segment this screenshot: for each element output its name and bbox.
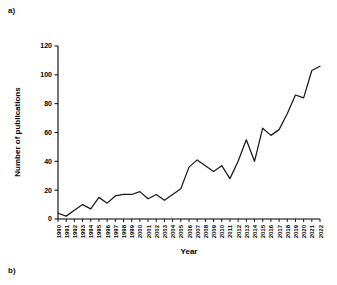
x-axis-tick-label: 2002	[154, 224, 160, 238]
x-axis-tick-label: 1994	[88, 224, 94, 238]
y-axis-tick-labels: 020406080100120	[40, 42, 52, 222]
x-axis-tick-label: 2006	[187, 224, 193, 238]
x-axis-tick-label: 1990	[56, 224, 62, 238]
x-axis-tick-label: 2015	[260, 224, 266, 238]
y-axis-tick-label: 20	[44, 187, 52, 194]
y-axis-tick-label: 0	[48, 215, 52, 222]
panel-a-label: a)	[8, 6, 15, 15]
x-axis-tick-label: 2000	[137, 224, 143, 238]
x-axis-tick-label: 2010	[219, 224, 225, 238]
y-axis-title: Number of publications	[13, 87, 22, 177]
panel-b-label: b)	[8, 266, 16, 275]
x-axis-tick-label: 1991	[64, 224, 70, 238]
x-axis-tick-label: 2008	[203, 224, 209, 238]
x-axis-tick-label: 1997	[113, 224, 119, 238]
x-axis-tick-label: 2017	[277, 224, 283, 238]
x-axis-tick-label: 2007	[195, 224, 201, 238]
x-axis-tick-label: 1999	[129, 224, 135, 238]
x-axis-tick-label: 1995	[96, 224, 102, 238]
y-axis-tick-label: 80	[44, 100, 52, 107]
x-axis-tick-labels: 1990199119921993199419951996199719981999…	[56, 224, 324, 238]
x-axis-tick-label: 2018	[285, 224, 291, 238]
x-axis-tick-label: 2014	[252, 224, 258, 238]
x-axis-tick-label: 2021	[309, 224, 315, 238]
publications-series-line	[58, 66, 320, 216]
x-axis-tick-label: 2011	[227, 224, 233, 238]
figure-container: a) 020406080100120 199019911992199319941…	[0, 0, 337, 285]
x-axis-tick-label: 2001	[146, 224, 152, 238]
x-axis-tick-label: 1992	[72, 224, 78, 238]
x-axis-tick-label: 2009	[211, 224, 217, 238]
publications-line-chart: 020406080100120 199019911992199319941995…	[0, 18, 337, 258]
y-axis-tick-label: 120	[40, 42, 52, 49]
x-axis-tick-label: 2013	[244, 224, 250, 238]
y-axis-tick-label: 100	[40, 71, 52, 78]
chart-svg: 020406080100120 199019911992199319941995…	[0, 18, 337, 258]
y-axis-tick-label: 40	[44, 158, 52, 165]
y-axis-tick-label: 60	[44, 129, 52, 136]
x-axis-tick-label: 2012	[236, 224, 242, 238]
x-axis-tick-label: 2003	[162, 224, 168, 238]
x-axis-title: Year	[181, 247, 198, 256]
x-axis-tick-label: 2019	[293, 224, 299, 238]
x-axis-tick-label: 2022	[318, 224, 324, 238]
x-axis-tick-label: 2020	[301, 224, 307, 238]
x-axis-tick-label: 1993	[80, 224, 86, 238]
x-axis-tick-label: 2004	[170, 224, 176, 238]
x-axis-tick-label: 1998	[121, 224, 127, 238]
x-axis-tick-label: 2005	[178, 224, 184, 238]
x-axis-tick-label: 1996	[105, 224, 111, 238]
x-axis-tick-label: 2016	[268, 224, 274, 238]
